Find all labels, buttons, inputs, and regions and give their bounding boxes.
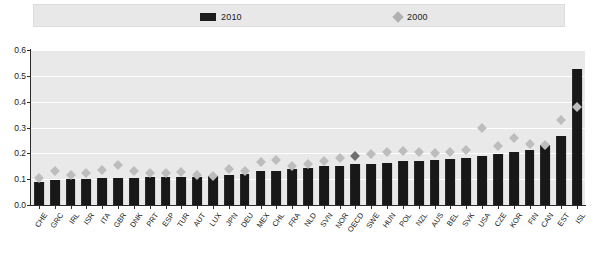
bar[interactable] [446,159,456,206]
bar-group[interactable] [158,50,174,205]
bar[interactable] [113,178,123,205]
bar[interactable] [366,164,376,205]
bar-group[interactable] [221,50,237,205]
data-point-marker[interactable] [493,141,503,151]
bar[interactable] [50,180,60,205]
data-point-marker[interactable] [382,147,392,157]
bar-group[interactable] [506,50,522,205]
data-point-marker[interactable] [81,169,91,179]
data-point-marker[interactable] [66,170,76,180]
bar[interactable] [430,160,440,205]
data-point-marker[interactable] [556,115,566,125]
bar-group[interactable] [474,50,490,205]
data-point-marker[interactable] [335,153,345,163]
bar-group[interactable] [379,50,395,205]
data-point-marker[interactable] [351,151,361,161]
x-tick-mark [245,206,246,209]
bar[interactable] [256,171,266,205]
bar-group[interactable] [553,50,569,205]
data-point-marker[interactable] [509,133,519,143]
bar-group[interactable] [268,50,284,205]
data-point-marker[interactable] [366,149,376,159]
data-point-marker[interactable] [97,165,107,175]
bar[interactable] [97,178,107,205]
bar[interactable] [461,158,471,205]
bar-group[interactable] [348,50,364,205]
bar[interactable] [240,174,250,205]
bar[interactable] [556,136,566,205]
bar-group[interactable] [237,50,253,205]
bar-group[interactable] [126,50,142,205]
bar-group[interactable] [522,50,538,205]
data-point-marker[interactable] [50,166,60,176]
bar-group[interactable] [78,50,94,205]
bar-group[interactable] [569,50,585,205]
bar[interactable] [382,163,392,205]
bar[interactable] [525,150,535,205]
bar-group[interactable] [538,50,554,205]
bar[interactable] [176,177,186,205]
bar[interactable] [493,154,503,205]
bar[interactable] [398,161,408,205]
bar-group[interactable] [47,50,63,205]
bar[interactable] [303,168,313,205]
data-point-marker[interactable] [430,148,440,158]
bar-group[interactable] [490,50,506,205]
bar-group[interactable] [142,50,158,205]
data-point-marker[interactable] [129,166,139,176]
bar[interactable] [224,175,234,205]
data-point-marker[interactable] [145,168,155,178]
bar-group[interactable] [443,50,459,205]
bar-group[interactable] [173,50,189,205]
bar-group[interactable] [63,50,79,205]
bar-group[interactable] [205,50,221,205]
bar[interactable] [351,164,361,205]
bar[interactable] [509,152,519,205]
data-point-marker[interactable] [113,160,123,170]
data-point-marker[interactable] [256,157,266,167]
bar[interactable] [81,179,91,205]
bar[interactable] [287,169,297,205]
bar-group[interactable] [284,50,300,205]
data-point-marker[interactable] [414,147,424,157]
bar-group[interactable] [411,50,427,205]
bar-group[interactable] [458,50,474,205]
bar-group[interactable] [363,50,379,205]
legend-item-2010[interactable]: 2010 [200,5,242,28]
data-point-marker[interactable] [319,156,329,166]
bar-group[interactable] [31,50,47,205]
x-tick-mark [340,206,341,209]
bar[interactable] [541,145,551,205]
x-tick-mark [292,206,293,209]
data-point-marker[interactable] [461,145,471,155]
data-point-marker[interactable] [525,139,535,149]
bar[interactable] [129,178,139,205]
bar[interactable] [192,177,202,205]
bar-group[interactable] [189,50,205,205]
data-point-marker[interactable] [477,123,487,133]
data-point-marker[interactable] [271,155,281,165]
bar-group[interactable] [427,50,443,205]
data-point-marker[interactable] [176,167,186,177]
bar-group[interactable] [332,50,348,205]
bar-group[interactable] [253,50,269,205]
bar[interactable] [572,69,582,205]
bar[interactable] [335,166,345,205]
bar-group[interactable] [316,50,332,205]
bar[interactable] [145,177,155,205]
bar[interactable] [477,156,487,205]
bar[interactable] [66,179,76,205]
data-point-marker[interactable] [398,146,408,156]
bar-group[interactable] [94,50,110,205]
bar[interactable] [414,161,424,205]
bar-group[interactable] [395,50,411,205]
bar[interactable] [161,177,171,205]
bar[interactable] [319,166,329,205]
legend-item-2000[interactable]: 2000 [394,5,428,28]
bar[interactable] [34,182,44,205]
data-point-marker[interactable] [445,147,455,157]
data-point-marker[interactable] [224,164,234,174]
bar[interactable] [271,171,281,205]
bar-group[interactable] [110,50,126,205]
bar-group[interactable] [300,50,316,205]
